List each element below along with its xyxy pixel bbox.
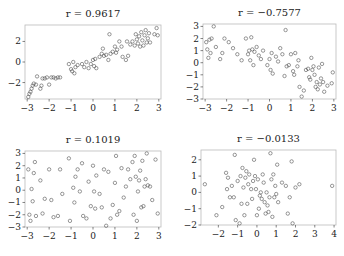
y-tick-label: 3: [193, 21, 199, 31]
data-point: [131, 160, 134, 163]
data-point: [52, 215, 55, 218]
data-point: [120, 45, 123, 48]
data-point: [259, 57, 262, 60]
x-tick-label: −1: [64, 103, 77, 113]
data-point: [227, 40, 230, 43]
y-tick-label: −3: [186, 94, 200, 104]
data-point: [144, 28, 147, 31]
y-tick-label: −2: [186, 82, 199, 92]
data-point: [320, 62, 323, 65]
data-point: [135, 38, 138, 41]
data-point: [87, 66, 90, 69]
data-point: [248, 59, 251, 62]
data-point: [298, 183, 301, 186]
data-point: [246, 53, 249, 56]
data-point: [233, 153, 236, 156]
data-point: [245, 169, 248, 172]
data-point: [47, 168, 50, 171]
data-point: [286, 212, 289, 215]
data-point: [68, 219, 71, 222]
data-point: [67, 62, 70, 65]
data-point: [73, 72, 76, 75]
data-point: [269, 68, 272, 71]
data-point: [100, 206, 103, 209]
data-point: [321, 80, 324, 83]
data-point: [102, 168, 105, 171]
data-point: [69, 67, 72, 70]
data-point: [115, 48, 118, 51]
data-point: [231, 46, 234, 49]
data-point: [121, 55, 124, 58]
data-point: [311, 68, 314, 71]
data-point: [113, 45, 116, 48]
data-point: [89, 62, 92, 65]
data-point: [247, 183, 250, 186]
data-point: [255, 214, 258, 217]
data-point: [151, 198, 154, 201]
data-point: [269, 152, 272, 155]
data-point: [249, 187, 252, 190]
data-point: [266, 204, 269, 207]
data-point: [31, 200, 34, 203]
scatter-panel-2: r = −0.7577−3−2−10123−3−2−10123: [186, 7, 337, 113]
x-tick-label: 2: [134, 103, 140, 113]
data-point: [274, 184, 277, 187]
panel-title: r = 0.1019: [66, 134, 121, 145]
data-point: [330, 184, 333, 187]
figure: r = 0.9617−3−2−10123−202r = −0.7577−3−2−…: [0, 0, 344, 256]
data-point: [98, 55, 101, 58]
data-point: [288, 196, 291, 199]
data-point: [113, 181, 116, 184]
data-point: [244, 176, 247, 179]
data-point: [141, 39, 144, 42]
data-point: [248, 173, 251, 176]
data-point: [67, 157, 70, 160]
x-tick-label: −3: [199, 103, 213, 113]
data-point: [78, 190, 81, 193]
data-point: [253, 50, 256, 53]
data-point: [294, 51, 297, 54]
x-tick-label: −1: [231, 229, 244, 239]
data-point: [275, 163, 278, 166]
x-tick-label: −1: [64, 231, 77, 241]
panel-title: r = 0.9617: [66, 8, 121, 19]
y-tick-label: −3: [8, 222, 22, 232]
data-point: [291, 222, 294, 225]
data-point: [239, 174, 242, 177]
data-point: [257, 54, 260, 57]
x-tick-label: 0: [90, 103, 96, 113]
data-point: [203, 183, 206, 186]
data-point: [83, 65, 86, 68]
data-point: [279, 46, 282, 49]
data-point: [80, 62, 83, 65]
x-tick-label: −1: [241, 103, 254, 113]
y-tick-label: −1: [184, 204, 197, 214]
data-point: [29, 219, 32, 222]
y-tick-label: 2: [193, 34, 199, 44]
data-point: [284, 28, 287, 31]
data-point: [261, 173, 264, 176]
data-point: [147, 32, 150, 35]
data-point: [266, 63, 269, 66]
y-tick-label: 2: [15, 36, 21, 46]
x-tick-label: −3: [21, 103, 35, 113]
data-point: [148, 41, 151, 44]
data-point: [28, 213, 31, 216]
data-point: [50, 198, 53, 201]
data-point: [136, 190, 139, 193]
plot-frame: [203, 24, 336, 99]
data-point: [156, 34, 159, 37]
data-point: [126, 168, 129, 171]
data-point: [256, 178, 259, 181]
data-point: [126, 54, 129, 57]
data-point: [302, 89, 305, 92]
data-point: [238, 222, 241, 225]
data-point: [43, 197, 46, 200]
data-point: [122, 196, 125, 199]
x-tick-label: 0: [254, 229, 260, 239]
data-point: [56, 214, 59, 217]
data-point: [258, 194, 261, 197]
data-point: [137, 179, 140, 182]
data-point: [58, 76, 61, 79]
data-point: [254, 187, 257, 190]
